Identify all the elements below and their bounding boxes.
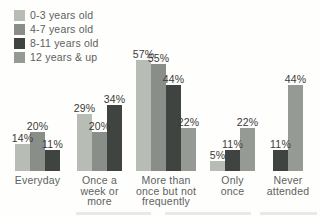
bar-value-label: 29% <box>74 102 96 114</box>
scan-artifact <box>165 212 251 215</box>
bar-value-label: 11% <box>270 138 291 150</box>
bar <box>136 60 151 171</box>
scan-artifact <box>76 212 151 215</box>
bar <box>92 132 107 171</box>
bar-value-label: 55% <box>148 52 170 64</box>
bar <box>181 128 196 171</box>
bar <box>288 85 303 171</box>
chart-plot-area: 14%20%11%Everyday29%20%34%Once aweek orm… <box>0 0 321 216</box>
bar-value-label: 5% <box>210 149 226 161</box>
bar <box>225 150 240 171</box>
bar-value-label: 11% <box>42 138 63 150</box>
bar-value-label: 22% <box>178 116 200 128</box>
bar-value-label: 11% <box>222 138 243 150</box>
bar-value-label: 20% <box>89 120 111 132</box>
bar-value-label: 14% <box>12 132 34 144</box>
category-label: More thanonce but notfrequently <box>136 175 196 207</box>
bar <box>273 150 288 171</box>
bar-value-label: 34% <box>104 93 126 105</box>
scan-artifact <box>260 212 317 215</box>
bar-value-label: 22% <box>237 116 259 128</box>
category-label: Neverattended <box>267 175 309 196</box>
category-label: Everyday <box>15 175 60 186</box>
category-label: Onlyonce <box>221 175 245 196</box>
bar-chart-figure: 0-3 years old4-7 years old8-11 years old… <box>0 0 321 216</box>
bar-value-label: 44% <box>285 73 307 85</box>
bar <box>166 85 181 171</box>
bar <box>45 150 60 171</box>
bar-value-label: 44% <box>163 73 185 85</box>
category-label: Once aweek ormore <box>80 175 118 207</box>
bar <box>210 161 225 171</box>
bar <box>15 144 30 171</box>
bar <box>107 105 122 171</box>
bar-value-label: 20% <box>27 120 49 132</box>
